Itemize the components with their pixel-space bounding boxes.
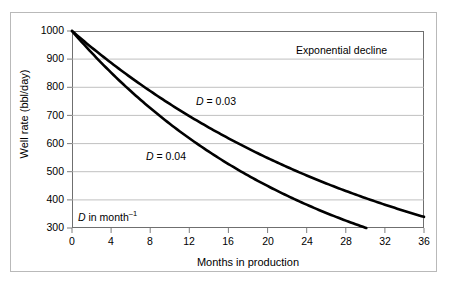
y-tick-label-400: 400 [24, 194, 64, 205]
curve-1-value: = 0.03 [207, 95, 237, 107]
x-tick-label-8: 8 [135, 236, 165, 247]
x-axis-ticks [72, 228, 424, 233]
y-axis-title: Well rate (bbl/day) [18, 44, 30, 184]
x-tick-label-32: 32 [370, 236, 400, 247]
units-exponent: –1 [129, 209, 137, 218]
gridlines [72, 59, 424, 200]
curve-d-004 [72, 31, 366, 228]
y-tick-label-800: 800 [24, 81, 64, 92]
curve-2-label: D = 0.04 [146, 150, 186, 162]
units-symbol: D [78, 211, 86, 223]
data-curves [72, 31, 424, 228]
units-note: D in month–1 [78, 209, 137, 223]
y-tick-label-900: 900 [24, 53, 64, 64]
curve-1-symbol: D [196, 95, 204, 107]
units-text: in month [86, 211, 129, 223]
y-tick-label-700: 700 [24, 110, 64, 121]
curve-1-label: D = 0.03 [196, 95, 236, 107]
y-tick-label-600: 600 [24, 138, 64, 149]
chart-figure: 1000 900 800 700 600 500 400 300 0 4 8 1… [0, 0, 461, 286]
regime-note: Exponential decline [296, 44, 387, 56]
curve-2-symbol: D [146, 150, 154, 162]
x-tick-label-24: 24 [292, 236, 322, 247]
y-axis-ticks [67, 31, 72, 228]
y-tick-label-500: 500 [24, 166, 64, 177]
y-tick-label-1000: 1000 [24, 25, 64, 36]
x-tick-label-16: 16 [213, 236, 243, 247]
y-tick-label-300: 300 [24, 222, 64, 233]
curve-2-value: = 0.04 [157, 150, 187, 162]
x-tick-label-0: 0 [57, 236, 87, 247]
x-tick-label-20: 20 [253, 236, 283, 247]
x-tick-label-36: 36 [409, 236, 439, 247]
x-tick-label-4: 4 [96, 236, 126, 247]
x-tick-label-28: 28 [331, 236, 361, 247]
x-axis-title: Months in production [72, 256, 424, 268]
x-tick-label-12: 12 [174, 236, 204, 247]
